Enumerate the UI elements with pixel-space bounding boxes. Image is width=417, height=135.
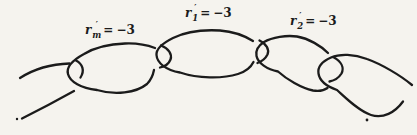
equals-sign: = (200, 6, 210, 20)
ink-speck (16, 118, 18, 120)
left-partial-link-strand-3 (22, 91, 74, 119)
subscript: 2 (297, 22, 303, 31)
link-r-m-strand-1 (68, 43, 155, 92)
label-variable: r (185, 6, 191, 20)
subscript: 1 (192, 14, 198, 23)
label-variable: r (290, 14, 296, 28)
equals-sign: = (103, 23, 113, 37)
subscript: m (92, 31, 101, 40)
label-value: −3 (318, 14, 336, 28)
link-r-2-strand-2 (330, 58, 343, 82)
figure-page: r ′ m = −3 r ′ 1 = −3 r ′ 2 = −3 (0, 0, 417, 135)
label-r-prime-m: r ′ m = −3 (85, 21, 135, 39)
right-partial-link (318, 55, 412, 116)
label-r-prime-2: r ′ 2 = −3 (290, 12, 337, 30)
label-variable: r (85, 23, 91, 37)
label-r-prime-1: r ′ 1 = −3 (185, 4, 232, 22)
label-prime-sub-stack: ′ 1 (192, 4, 198, 22)
label-prime-sub-stack: ′ m (92, 21, 101, 39)
label-prime-sub-stack: ′ 2 (297, 12, 303, 30)
ink-speck (366, 119, 369, 122)
left-partial-link-strand-2 (76, 61, 83, 78)
equals-sign: = (305, 14, 315, 28)
label-value: −3 (213, 6, 231, 20)
link-r-2-strand-1 (256, 36, 328, 91)
label-value: −3 (116, 23, 134, 37)
prime-mark: ′ (299, 12, 301, 21)
left-partial-link-strand-1 (20, 64, 70, 79)
prime-mark: ′ (194, 4, 196, 13)
prime-mark: ′ (96, 21, 98, 30)
